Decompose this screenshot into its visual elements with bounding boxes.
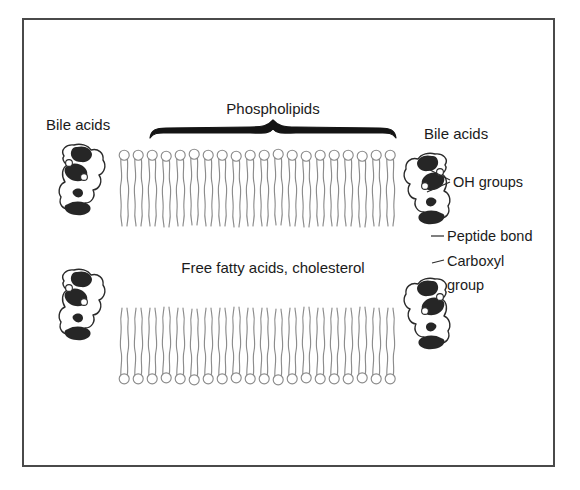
bile-acids-right-label: Bile acids	[424, 125, 488, 142]
carboxyl-group-label-line1: Carboxyl	[447, 253, 504, 269]
peptide-bond-callout: Peptide bond	[431, 228, 532, 244]
figure-container: Phospholipids	[0, 0, 580, 490]
phospholipids-label: Phospholipids	[226, 100, 319, 117]
peptide-bond-label: Peptide bond	[447, 228, 532, 244]
bile-acids-left-label: Bile acids	[46, 116, 110, 133]
core-contents-label: Free fatty acids, cholesterol	[181, 259, 364, 276]
diagram-canvas: Phospholipids	[0, 0, 580, 490]
oh-groups-label: OH groups	[453, 174, 523, 190]
carboxyl-group-label-line2: group	[447, 277, 484, 293]
